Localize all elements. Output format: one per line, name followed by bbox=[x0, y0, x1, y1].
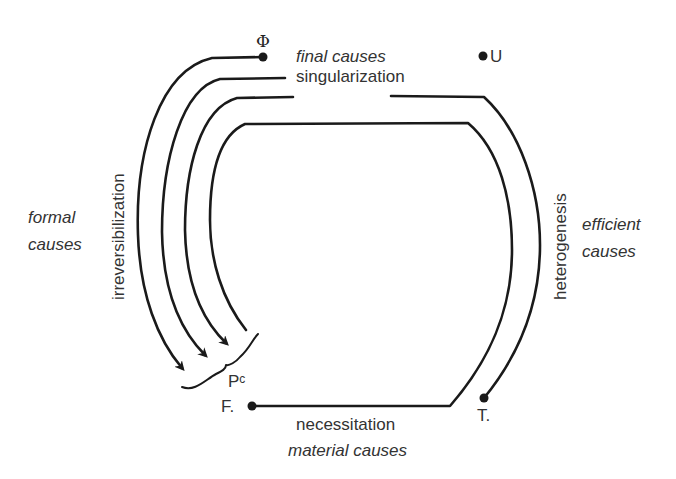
u-label: U bbox=[490, 47, 502, 66]
material-causes-label: material causes bbox=[288, 441, 408, 460]
formal-causes-label-line2: causes bbox=[28, 235, 82, 254]
necessitation-label: necessitation bbox=[296, 415, 395, 434]
curve-phi-to-pc bbox=[138, 57, 263, 368]
f-node-dot bbox=[248, 402, 257, 411]
phi-label: Φ bbox=[256, 31, 270, 51]
singularization-label: singularization bbox=[296, 67, 405, 86]
efficient-causes-label-line2: causes bbox=[582, 242, 636, 261]
curve-heterogenesis bbox=[391, 96, 540, 398]
pc-label-base: P bbox=[228, 372, 239, 391]
curve-singularization-to-pc-3 bbox=[185, 97, 293, 343]
t-node-dot bbox=[480, 394, 489, 403]
phi-node-dot bbox=[259, 53, 268, 62]
curve-inner-loop bbox=[210, 123, 512, 406]
pc-label: Pc bbox=[228, 372, 245, 391]
curve-singularization-to-pc-2 bbox=[162, 78, 285, 355]
final-causes-label: final causes bbox=[296, 47, 386, 66]
irreversibilization-label: irreversibilization bbox=[109, 173, 128, 300]
u-node-dot bbox=[479, 52, 488, 61]
pc-label-superscript: c bbox=[239, 372, 245, 386]
efficient-causes-label-line1: efficient bbox=[582, 215, 642, 234]
f-label: F. bbox=[221, 397, 234, 416]
heterogenesis-label: heterogenesis bbox=[551, 193, 570, 300]
four-causes-diagram: Φ U F. T. Pc final causes singularizatio… bbox=[0, 0, 676, 479]
formal-causes-label-line1: formal bbox=[28, 208, 76, 227]
t-label: T. bbox=[477, 406, 490, 425]
